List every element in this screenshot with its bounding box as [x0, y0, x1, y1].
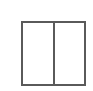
two-column-layout-icon	[21, 21, 86, 86]
column-divider	[53, 23, 55, 84]
